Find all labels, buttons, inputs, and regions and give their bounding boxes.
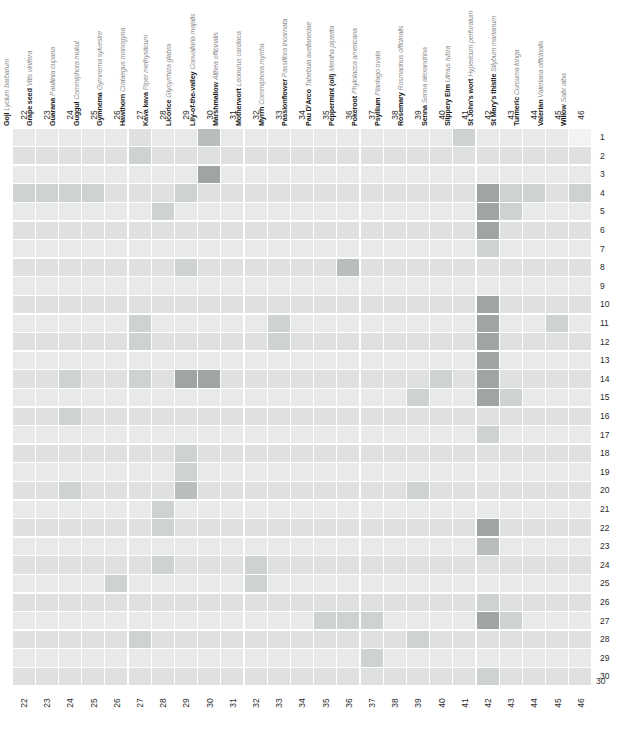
- heatmap-cell[interactable]: [129, 482, 151, 499]
- heatmap-cell[interactable]: [36, 463, 58, 480]
- heatmap-cell[interactable]: [430, 612, 452, 629]
- heatmap-cell[interactable]: [105, 445, 127, 462]
- heatmap-cell[interactable]: [337, 203, 359, 220]
- heatmap-cell[interactable]: [337, 129, 359, 146]
- heatmap-cell[interactable]: [59, 333, 81, 350]
- heatmap-cell[interactable]: [407, 426, 429, 443]
- heatmap-cell[interactable]: [477, 556, 499, 573]
- heatmap-cell[interactable]: [82, 501, 104, 518]
- heatmap-cell[interactable]: [59, 240, 81, 257]
- heatmap-cell[interactable]: [523, 463, 545, 480]
- heatmap-cell[interactable]: [569, 538, 591, 555]
- heatmap-cell[interactable]: [105, 240, 127, 257]
- heatmap-cell[interactable]: [245, 631, 267, 648]
- heatmap-cell[interactable]: [268, 445, 290, 462]
- heatmap-cell[interactable]: [384, 575, 406, 592]
- heatmap-cell[interactable]: [268, 575, 290, 592]
- heatmap-cell[interactable]: [175, 147, 197, 164]
- heatmap-cell[interactable]: [430, 538, 452, 555]
- heatmap-cell[interactable]: [268, 184, 290, 201]
- heatmap-cell[interactable]: [268, 147, 290, 164]
- heatmap-cell[interactable]: [291, 594, 313, 611]
- heatmap-cell[interactable]: [105, 129, 127, 146]
- heatmap-cell[interactable]: [36, 240, 58, 257]
- heatmap-cell[interactable]: [361, 631, 383, 648]
- heatmap-cell[interactable]: [569, 129, 591, 146]
- heatmap-cell[interactable]: [105, 389, 127, 406]
- heatmap-cell[interactable]: [221, 594, 243, 611]
- heatmap-cell[interactable]: [384, 259, 406, 276]
- heatmap-cell[interactable]: [453, 203, 475, 220]
- heatmap-cell[interactable]: [569, 519, 591, 536]
- heatmap-cell[interactable]: [384, 184, 406, 201]
- heatmap-cell[interactable]: [453, 463, 475, 480]
- heatmap-cell[interactable]: [221, 240, 243, 257]
- heatmap-cell[interactable]: [59, 501, 81, 518]
- heatmap-cell[interactable]: [430, 166, 452, 183]
- heatmap-cell[interactable]: [453, 556, 475, 573]
- heatmap-cell[interactable]: [361, 184, 383, 201]
- heatmap-cell[interactable]: [268, 463, 290, 480]
- heatmap-cell[interactable]: [36, 668, 58, 685]
- heatmap-cell[interactable]: [337, 426, 359, 443]
- heatmap-cell[interactable]: [129, 240, 151, 257]
- heatmap-cell[interactable]: [105, 315, 127, 332]
- heatmap-cell[interactable]: [523, 184, 545, 201]
- heatmap-cell[interactable]: [384, 631, 406, 648]
- heatmap-cell[interactable]: [430, 575, 452, 592]
- heatmap-cell[interactable]: [152, 631, 174, 648]
- heatmap-cell[interactable]: [384, 129, 406, 146]
- heatmap-cell[interactable]: [337, 575, 359, 592]
- heatmap-cell[interactable]: [523, 370, 545, 387]
- heatmap-cell[interactable]: [245, 389, 267, 406]
- heatmap-cell[interactable]: [546, 445, 568, 462]
- heatmap-cell[interactable]: [13, 501, 35, 518]
- heatmap-cell[interactable]: [337, 538, 359, 555]
- heatmap-cell[interactable]: [291, 352, 313, 369]
- heatmap-cell[interactable]: [291, 556, 313, 573]
- heatmap-cell[interactable]: [477, 147, 499, 164]
- heatmap-cell[interactable]: [105, 259, 127, 276]
- heatmap-cell[interactable]: [546, 649, 568, 666]
- heatmap-cell[interactable]: [569, 482, 591, 499]
- heatmap-cell[interactable]: [546, 333, 568, 350]
- heatmap-cell[interactable]: [453, 612, 475, 629]
- heatmap-cell[interactable]: [59, 538, 81, 555]
- heatmap-cell[interactable]: [152, 612, 174, 629]
- heatmap-cell[interactable]: [291, 370, 313, 387]
- heatmap-cell[interactable]: [221, 184, 243, 201]
- heatmap-cell[interactable]: [245, 277, 267, 294]
- heatmap-cell[interactable]: [59, 129, 81, 146]
- heatmap-cell[interactable]: [245, 315, 267, 332]
- heatmap-cell[interactable]: [82, 519, 104, 536]
- heatmap-cell[interactable]: [82, 482, 104, 499]
- heatmap-cell[interactable]: [477, 240, 499, 257]
- heatmap-cell[interactable]: [291, 166, 313, 183]
- heatmap-cell[interactable]: [407, 389, 429, 406]
- heatmap-cell[interactable]: [407, 612, 429, 629]
- heatmap-cell[interactable]: [453, 315, 475, 332]
- heatmap-cell[interactable]: [105, 668, 127, 685]
- heatmap-cell[interactable]: [384, 445, 406, 462]
- heatmap-cell[interactable]: [569, 631, 591, 648]
- heatmap-cell[interactable]: [268, 370, 290, 387]
- heatmap-cell[interactable]: [105, 203, 127, 220]
- heatmap-cell[interactable]: [453, 166, 475, 183]
- heatmap-cell[interactable]: [152, 575, 174, 592]
- heatmap-cell[interactable]: [523, 482, 545, 499]
- heatmap-cell[interactable]: [152, 222, 174, 239]
- heatmap-cell[interactable]: [152, 408, 174, 425]
- heatmap-cell[interactable]: [453, 129, 475, 146]
- heatmap-cell[interactable]: [36, 445, 58, 462]
- heatmap-cell[interactable]: [337, 519, 359, 536]
- heatmap-cell[interactable]: [407, 147, 429, 164]
- heatmap-cell[interactable]: [546, 408, 568, 425]
- heatmap-cell[interactable]: [59, 222, 81, 239]
- heatmap-cell[interactable]: [129, 519, 151, 536]
- heatmap-cell[interactable]: [152, 538, 174, 555]
- heatmap-cell[interactable]: [291, 538, 313, 555]
- heatmap-cell[interactable]: [291, 184, 313, 201]
- heatmap-cell[interactable]: [523, 668, 545, 685]
- heatmap-cell[interactable]: [314, 315, 336, 332]
- heatmap-cell[interactable]: [384, 370, 406, 387]
